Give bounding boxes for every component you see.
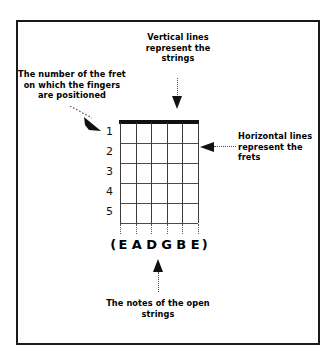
open-string-note: E — [191, 237, 200, 252]
open-strings-label: (EADGBE) — [110, 237, 208, 252]
open-string-note: A — [132, 237, 142, 252]
open-string-note: E — [118, 237, 127, 252]
fret-line — [120, 183, 198, 184]
caption-open-notes: The notes of the open strings — [98, 298, 218, 319]
string-tail — [182, 224, 183, 234]
caption-fret-number: The number of the fret on which the fing… — [17, 69, 127, 101]
string-tail — [120, 224, 121, 234]
diagram-page: Vertical lines represent the strings The… — [0, 0, 336, 363]
open-string-note: D — [146, 237, 157, 252]
string-line — [182, 123, 183, 223]
arrow-shaft — [214, 146, 236, 147]
arrow-head — [172, 96, 182, 109]
open-string-note: B — [176, 237, 186, 252]
string-line — [136, 123, 137, 223]
fret-number: 5 — [101, 205, 113, 218]
fret-line — [120, 203, 198, 204]
fret-number: 4 — [101, 185, 113, 198]
fretboard-grid — [120, 123, 198, 223]
fret-number: 1 — [101, 125, 113, 138]
caption-horizontal-frets: Horizontal lines represent the frets — [238, 131, 324, 163]
open-paren: ( — [110, 237, 116, 252]
arrow-head — [200, 142, 214, 152]
open-string-note: G — [161, 237, 172, 252]
arrow-shaft — [158, 272, 159, 292]
fret-line — [120, 163, 198, 164]
close-paren: ) — [202, 237, 208, 252]
string-line — [120, 123, 121, 223]
nut-bar — [119, 120, 199, 124]
arrow-head — [153, 259, 163, 272]
string-tail — [151, 224, 152, 234]
string-tail — [136, 224, 137, 234]
fret-line — [120, 223, 198, 224]
arrow-shaft — [177, 78, 178, 97]
string-line — [198, 123, 199, 223]
fret-number: 2 — [101, 145, 113, 158]
string-tail — [167, 224, 168, 234]
caption-vertical-strings: Vertical lines represent the strings — [131, 32, 225, 64]
string-line — [167, 123, 168, 223]
fret-number: 3 — [101, 165, 113, 178]
string-tail — [198, 224, 199, 234]
string-line — [151, 123, 152, 223]
fret-line — [120, 143, 198, 144]
